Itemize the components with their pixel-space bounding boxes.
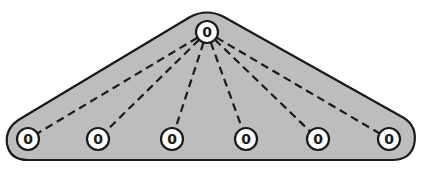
leaf-3-node: 0 bbox=[161, 128, 183, 150]
node-label: 0 bbox=[23, 131, 33, 147]
node-label: 0 bbox=[241, 131, 251, 147]
node-label: 0 bbox=[93, 131, 103, 147]
node-label: 0 bbox=[167, 131, 177, 147]
leaf-6-node: 0 bbox=[378, 128, 400, 150]
node-label: 0 bbox=[313, 131, 323, 147]
node-label: 0 bbox=[202, 24, 212, 40]
leaf-1-node: 0 bbox=[17, 128, 39, 150]
leaf-5-node: 0 bbox=[307, 128, 329, 150]
root-node: 0 bbox=[196, 21, 218, 43]
star-tree-diagram: 0000000 bbox=[0, 0, 422, 175]
node-label: 0 bbox=[384, 131, 394, 147]
leaf-2-node: 0 bbox=[87, 128, 109, 150]
leaf-4-node: 0 bbox=[235, 128, 257, 150]
